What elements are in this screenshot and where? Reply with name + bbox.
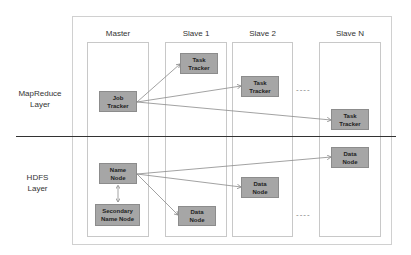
task-tracker-node-slave-2: TaskTracker [241, 76, 279, 97]
name-node: NameNode [99, 163, 137, 184]
task-tracker-node-slave-1: TaskTracker [180, 53, 218, 74]
data-node-slave-1: DataNode [178, 206, 216, 226]
job-tracker-node: JobTracker [99, 91, 137, 112]
ellipsis-hdfs: ---- [296, 210, 311, 219]
data-node-slave-n: DataNode [331, 147, 369, 168]
ellipsis-mapreduce: ---- [296, 85, 311, 94]
data-node-slave-2: DataNode [241, 177, 279, 198]
secondary-name-node: SecondaryName Node [95, 204, 140, 226]
task-tracker-node-slave-n: TaskTracker [331, 109, 369, 130]
